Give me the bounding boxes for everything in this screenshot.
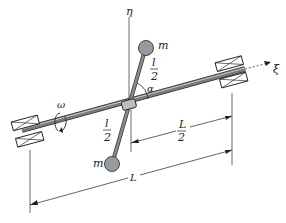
svg-text:2: 2	[103, 131, 111, 144]
svg-text:l: l	[152, 56, 156, 69]
alpha-label: α	[147, 83, 154, 94]
span-label: L	[129, 172, 137, 183]
eta-label: η	[126, 5, 133, 18]
rod-half-bottom-label: l 2	[103, 117, 111, 144]
mass-top	[139, 41, 154, 56]
mass-bottom	[105, 157, 120, 172]
xi-label: ξ	[273, 63, 280, 76]
svg-text:2: 2	[150, 70, 158, 83]
diagram-canvas: η ξ ω	[0, 0, 286, 223]
mass-top-label: m	[158, 39, 168, 52]
xi-axis	[245, 63, 268, 69]
svg-text:L: L	[178, 118, 186, 131]
rod-half-top-label: l 2	[150, 56, 158, 83]
xi-arrowhead	[264, 61, 271, 66]
svg-text:2: 2	[177, 131, 185, 144]
half-span-label: L 2	[177, 118, 186, 144]
mass-bottom-label: m	[93, 157, 103, 170]
omega-label: ω	[57, 99, 65, 110]
svg-text:l: l	[105, 117, 109, 130]
